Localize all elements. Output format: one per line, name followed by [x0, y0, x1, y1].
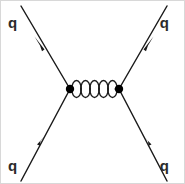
label-quark-bottom-left: q — [8, 157, 17, 174]
label-quark-bottom-right: q — [160, 157, 169, 174]
line-outgoing-quark-top-left — [21, 6, 70, 89]
right-vertex-dot — [115, 85, 123, 93]
line-incoming-quark-bottom-left — [21, 89, 70, 181]
feynman-diagram-svg: q q q q — [1, 1, 185, 184]
gluon-propagator-group — [69, 79, 119, 99]
feynman-diagram-canvas: q q q q — [0, 0, 185, 184]
left-vertex-dot — [66, 85, 74, 93]
label-quark-top-right: q — [160, 14, 169, 31]
label-quark-top-left: q — [8, 14, 17, 31]
